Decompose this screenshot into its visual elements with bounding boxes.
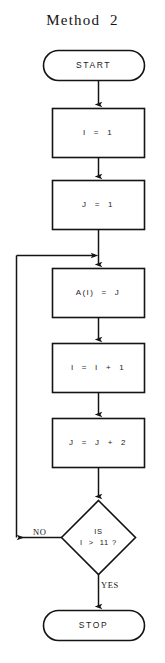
node-inc-i-shape <box>53 344 145 393</box>
node-inc-j-shape <box>53 419 145 468</box>
node-stop-shape <box>44 611 145 641</box>
node-test-shape <box>62 501 136 575</box>
flowchart-page: Method 2 <box>0 0 165 663</box>
node-init-i-shape <box>53 109 145 158</box>
node-assign-shape <box>53 269 145 318</box>
node-start-shape <box>44 51 145 81</box>
edge-label-no: NO <box>33 527 46 537</box>
flowchart-canvas <box>0 0 165 663</box>
edge-label-yes: YES <box>101 580 119 590</box>
node-init-j-shape <box>53 181 145 230</box>
